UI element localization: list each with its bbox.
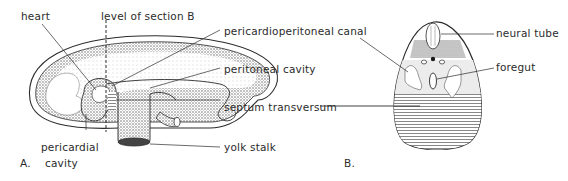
label-peritoneal-cavity: peritoneal cavity [224,63,316,75]
label-yolk-stalk: yolk stalk [224,141,276,153]
label-neural-tube: neural tube [496,27,559,39]
label-pericardioperitoneal-canal: pericardioperitoneal canal [224,25,367,37]
label-heart: heart [21,10,50,22]
label-septum-transversum: septum transversum [224,101,337,113]
cross-section-view [320,22,494,154]
label-foregut: foregut [496,61,536,73]
label-pericardial-cavity-line2: cavity [45,157,78,169]
panel-label-a: A. [20,157,31,169]
label-level-of-section-b: level of section B [101,10,195,22]
embryo-lateral-view [29,20,277,147]
label-pericardial-cavity-line1: pericardial [41,141,99,153]
panel-label-b: B. [344,157,355,169]
